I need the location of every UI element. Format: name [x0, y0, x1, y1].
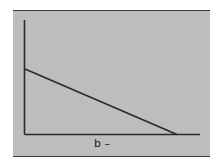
x-axis-label: b – — [94, 137, 134, 150]
decreasing-line — [25, 69, 177, 135]
diagram-canvas: b – — [0, 0, 221, 167]
